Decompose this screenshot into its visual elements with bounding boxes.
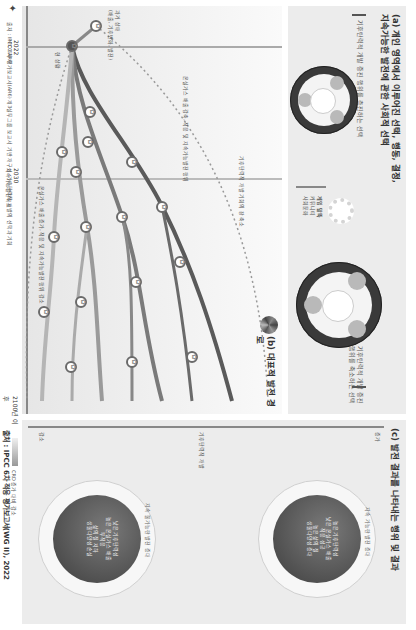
node: [156, 201, 168, 213]
panel-a-title-line1: (a) 개인 영역에서 이루어진 선택, 행동, 결정,: [390, 14, 401, 394]
axis-low-label: 감소: [39, 432, 46, 442]
globe-high-core-item: 높은 삶의 질: [313, 503, 320, 575]
node: [130, 276, 142, 288]
globe-low-core-item: 높은 온실가스 배출: [106, 503, 113, 575]
panel-a-title: (a) 개인 영역에서 이루어진 선택, 행동, 결정, 지속가능한 발전에 관…: [379, 14, 401, 394]
dial-reduce: [296, 262, 382, 348]
globe-low-core-item: 삶의 질 저하: [93, 503, 100, 575]
infographic-stage: (a) 개인 영역에서 이루어진 선택, 행동, 결정, 지속가능한 발전에 관…: [0, 0, 416, 630]
globe-high-core-item: 생물다양성 증대: [307, 503, 314, 575]
globe-high-core-item: 적응 성공: [320, 503, 327, 575]
gear-legend-divider: [296, 186, 326, 188]
globe-low-ring: 지속 불가능한 발전 증대: [145, 503, 152, 558]
axis-mid-label: 기후탄력적 개발: [199, 432, 206, 469]
globe-low-core-item: 낮은 기후탄력성: [113, 503, 120, 575]
timeline-2100: 2100년 이후: [2, 396, 20, 426]
globe-high-core-item: 높은 기후탄력성: [333, 503, 340, 575]
present-label: 현 상황: [55, 52, 62, 69]
year-2030: 2030: [13, 168, 20, 238]
globe-high-core-item: 낮은 온실가스 배출: [326, 503, 333, 575]
globe-low-core-item: 부적응: [100, 503, 107, 575]
year-2022: 2022: [13, 40, 20, 80]
panel-a: (a) 개인 영역에서 이루어진 선택, 행동, 결정, 지속가능한 발전에 관…: [288, 6, 406, 414]
globe-low-core: 낮은 기후탄력성 높은 온실가스 배출 부적응 삶의 질 저하 생물다양성 손실: [87, 503, 120, 575]
past-state-label: 과거 상태 (배출, 기후변화, 발전): [108, 10, 122, 70]
past-state-title: 과거 상태: [115, 10, 122, 70]
node-past: [90, 20, 102, 32]
node: [75, 296, 87, 308]
node: [84, 106, 96, 118]
upper-path-note: 온실가스 배출 감축, 적응 및 지속가능발전 행위: [183, 76, 190, 186]
caption-marker: [352, 14, 366, 16]
node: [116, 211, 128, 223]
panel-c-title: (c) 발전 결과를 나타내는 행위 및 결과: [389, 428, 400, 618]
node: [65, 361, 77, 373]
node: [80, 221, 92, 233]
node: [82, 136, 94, 148]
panel-b: (b) 대표적 발전 경로: [22, 6, 282, 414]
globe-high-resilience: 높은 기후탄력성 낮은 온실가스 배출 적응 성공 높은 삶의 질 생물다양성 …: [258, 480, 376, 598]
footer-note: 출처 : IPCC 6차 평가보고서(AR6) 제3실무그룹 보고서 기반 재구…: [7, 22, 14, 282]
dial-promote: [290, 66, 358, 134]
outcome-axis: [28, 426, 384, 428]
panel-c: (c) 발전 결과를 나타내는 행위 및 결과 증가 기후탄력적 개발 감소 높…: [22, 420, 406, 624]
gear-icon: [328, 198, 354, 224]
globe-high-ring: 지속 가능한 발전 증대: [365, 507, 372, 557]
panel-a-title-line2: 지속가능한 발전에 관한 사회적 선택: [379, 14, 390, 394]
source-citation: 출처 : IPCC 6차 적응 평가보고서(WG II), 2022: [2, 430, 12, 630]
globe-low-core-item: 생물다양성 손실: [87, 503, 94, 575]
lower-path-note: 온실가스 배출 증가, 적응 및 지속가능발전 행위 감소: [39, 186, 46, 316]
panel-a-left-caption: 기후탄력적 개발 증진 행위를 축소하는 선택: [348, 346, 364, 406]
node: [56, 146, 68, 158]
axis-high-label: 증가: [375, 432, 382, 442]
past-state-sub: (배출, 기후변화, 발전): [108, 10, 115, 70]
node: [174, 256, 186, 268]
globe-high-core: 높은 기후탄력성 낮은 온실가스 배출 적응 성공 높은 삶의 질 생물다양성 …: [307, 503, 340, 575]
logo-icon: ✦: [6, 4, 18, 18]
node: [126, 156, 138, 168]
node: [186, 351, 198, 363]
node: [48, 231, 60, 243]
node-present: [66, 40, 78, 52]
panel-a-right-caption: 기후탄력적 개발 증진 행위를 촉진하는 선택: [356, 20, 364, 160]
node: [126, 356, 138, 368]
crd-gradient-label: CRD 증가 대비 감소: [11, 470, 18, 516]
globe-low-resilience: 낮은 기후탄력성 높은 온실가스 배출 부적응 삶의 질 저하 생물다양성 손실…: [38, 480, 156, 598]
crd-gradient-legend: [12, 438, 18, 466]
dotted-note: 기후탄력적 개발 기회의 창 축소: [239, 156, 246, 266]
node: [70, 166, 82, 178]
